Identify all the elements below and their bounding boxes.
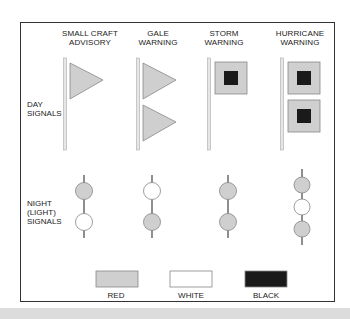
night-light-red [144,214,161,231]
legend-swatch-black [245,271,287,287]
night-light-red [220,183,237,200]
night-light-red [294,177,310,193]
night-light-red [220,214,237,231]
legend-label-black: BLACK [236,291,296,300]
legend-swatch-red [96,271,138,287]
flag-pole [137,58,140,150]
flag-pole [208,58,211,150]
night-light-red [76,183,93,200]
square-flag-center [224,71,238,85]
flag-pole [281,58,284,150]
pennant-flag [143,63,176,99]
night-light-white [76,214,93,231]
legend-swatch-white [170,271,212,287]
legend-label-red: RED [86,291,146,300]
night-light-white [294,199,310,215]
signals-drawing [0,0,350,319]
legend-label-white: WHITE [161,291,221,300]
square-flag-center [297,109,311,123]
square-flag-center [297,71,311,85]
pennant-flag [70,63,103,99]
night-light-red [294,221,310,237]
pennant-flag [143,105,176,141]
night-light-white [144,183,161,200]
flag-pole [64,58,67,150]
caption-strip [0,308,350,319]
